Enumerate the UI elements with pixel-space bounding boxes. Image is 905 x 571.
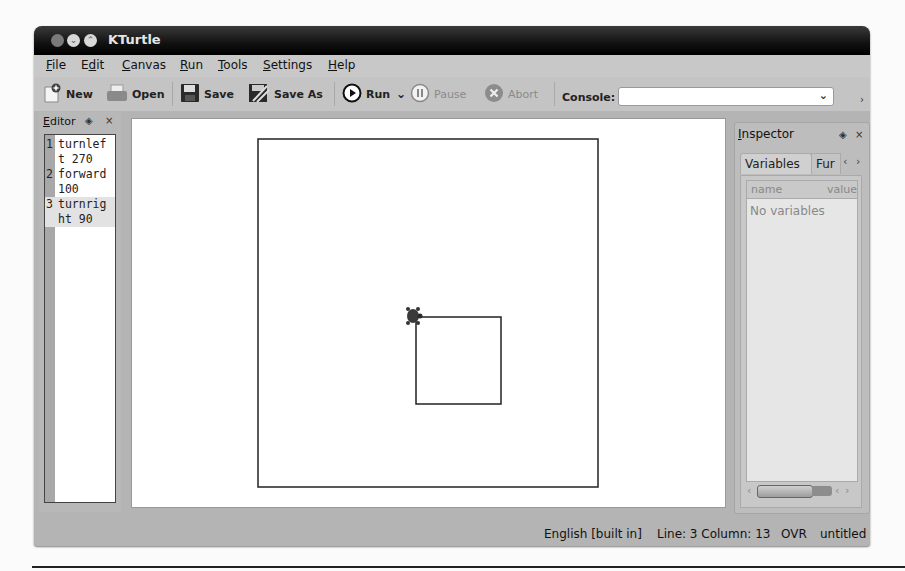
- kturtle-window: ⌄ ⌃ KTurtle File Edit Canvas Run Tools S…: [34, 26, 870, 546]
- editor-dock: Editor ◈ × 1turnleft 270 2forward100 3tu…: [39, 112, 121, 512]
- horizontal-scrollbar[interactable]: ‹ ‹ ›: [747, 484, 855, 498]
- toolbar-separator: [334, 82, 335, 106]
- title-bar: ⌄ ⌃ KTurtle: [34, 26, 870, 55]
- menu-bar: File Edit Canvas Run Tools Settings Help: [34, 55, 870, 77]
- canvas-drawing: [132, 119, 725, 507]
- editor-dock-title: Editor: [43, 115, 76, 128]
- pause-icon: [410, 83, 430, 106]
- maximize-window-button[interactable]: ⌃: [84, 34, 97, 47]
- console-input[interactable]: ⌄: [618, 87, 834, 106]
- column-name[interactable]: name: [751, 183, 782, 196]
- toolbar-separator: [172, 82, 173, 106]
- new-document-icon: [42, 83, 62, 106]
- close-dock-icon[interactable]: ×: [105, 115, 113, 126]
- menu-file[interactable]: File: [46, 58, 66, 72]
- chevron-down-icon[interactable]: ⌄: [819, 89, 828, 102]
- toolbar: New Open Save Save As Run ⌄: [34, 77, 870, 111]
- play-icon: [342, 83, 362, 106]
- inner-square: [416, 317, 501, 404]
- tab-variables[interactable]: Variables: [740, 153, 812, 174]
- tab-scroll-right-icon[interactable]: ›: [856, 155, 860, 168]
- run-speed-dropdown[interactable]: ⌄: [396, 83, 406, 105]
- menu-run[interactable]: Run: [180, 58, 203, 72]
- float-dock-icon[interactable]: ◈: [85, 115, 93, 126]
- outer-rectangle: [258, 139, 598, 487]
- save-as-icon: [248, 82, 270, 107]
- variables-panel: name value No variables ‹ ‹ ›: [740, 175, 862, 508]
- menu-canvas[interactable]: Canvas: [122, 58, 166, 72]
- save-as-button[interactable]: Save As: [248, 83, 323, 105]
- new-button[interactable]: New: [42, 83, 93, 105]
- minimize-window-button[interactable]: ⌄: [67, 34, 80, 47]
- chevron-down-icon: ⌄: [396, 87, 406, 101]
- menu-tools[interactable]: Tools: [218, 58, 248, 72]
- console-label: Console:: [562, 91, 615, 104]
- turtle-icon: [406, 307, 423, 325]
- scroll-right-icon[interactable]: ›: [845, 484, 849, 497]
- scroll-left-icon[interactable]: ‹: [747, 484, 751, 497]
- empty-message: No variables: [750, 204, 825, 218]
- code-line: 1turnleft 270: [45, 137, 115, 167]
- code-line: 2forward100: [45, 167, 115, 197]
- status-filename: untitled: [820, 527, 866, 541]
- pause-button[interactable]: Pause: [410, 83, 466, 105]
- inspector-dock: Inspector ◈ × Variables Fur ‹ › name val…: [734, 122, 870, 514]
- status-cursor-position: Line: 3 Column: 13: [657, 527, 770, 541]
- tab-functions[interactable]: Fur: [811, 153, 841, 174]
- status-language: English [built in]: [544, 527, 642, 541]
- printer-open-icon: [106, 83, 128, 106]
- column-value[interactable]: value: [827, 183, 857, 196]
- code-line-current: 3turnright 90: [45, 197, 115, 227]
- code-editor[interactable]: 1turnleft 270 2forward100 3turnright 90: [44, 134, 116, 503]
- inspector-title: Inspector: [738, 127, 794, 141]
- tab-scroll-left-icon[interactable]: ‹: [843, 155, 847, 168]
- window-title: KTurtle: [108, 32, 161, 47]
- abort-icon: [484, 83, 504, 106]
- save-button[interactable]: Save: [180, 83, 234, 105]
- page-rule: [32, 566, 905, 568]
- menu-help[interactable]: Help: [328, 58, 355, 72]
- run-button[interactable]: Run: [342, 83, 390, 105]
- table-header: name value: [747, 181, 857, 199]
- open-button[interactable]: Open: [106, 83, 165, 105]
- scroll-left-icon[interactable]: ‹: [835, 484, 839, 497]
- status-bar: English [built in] Line: 3 Column: 13 OV…: [34, 524, 870, 544]
- menu-edit[interactable]: Edit: [81, 58, 104, 72]
- variables-table[interactable]: name value No variables: [746, 180, 858, 482]
- float-dock-icon[interactable]: ◈: [839, 129, 847, 140]
- close-window-button[interactable]: [51, 34, 64, 47]
- scrollbar-track[interactable]: [812, 486, 832, 496]
- status-insert-mode: OVR: [781, 527, 807, 541]
- floppy-disk-icon: [180, 83, 200, 106]
- turtle-canvas[interactable]: [131, 118, 726, 508]
- abort-button[interactable]: Abort: [484, 83, 538, 105]
- close-dock-icon[interactable]: ×: [855, 129, 863, 140]
- scrollbar-thumb[interactable]: [757, 485, 813, 498]
- menu-settings[interactable]: Settings: [263, 58, 312, 72]
- toolbar-overflow-icon[interactable]: ›: [860, 94, 864, 105]
- toolbar-separator: [554, 82, 555, 106]
